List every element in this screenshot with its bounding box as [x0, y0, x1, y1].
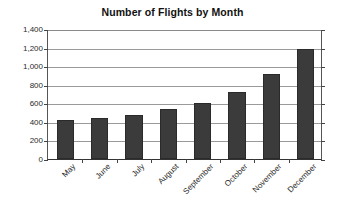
- x-axis-tick-label-text: December: [286, 162, 318, 194]
- bar: [194, 103, 211, 159]
- x-axis-tick-label-text: August: [157, 162, 181, 186]
- y-axis-tick-label: 600: [3, 100, 43, 108]
- x-axis-tick-label-text: November: [251, 162, 283, 194]
- y-tick-mark: [321, 86, 325, 87]
- bar: [228, 92, 245, 159]
- bar: [297, 49, 314, 159]
- y-tick-mark: [321, 141, 325, 142]
- y-tick-mark: [321, 123, 325, 124]
- y-axis-tick-label: 1,200: [3, 45, 43, 53]
- y-tick-mark: [44, 160, 48, 161]
- y-axis-tick-label: 200: [3, 137, 43, 145]
- bar-chart: Number of Flights by Month 0200400600800…: [0, 0, 345, 224]
- bar: [125, 115, 142, 159]
- y-tick-mark: [321, 160, 325, 161]
- y-tick-mark: [321, 49, 325, 50]
- bar: [263, 74, 280, 159]
- x-axis-tick-label-text: June: [93, 162, 112, 181]
- chart-title: Number of Flights by Month: [0, 6, 345, 18]
- x-axis-tick-label-text: July: [130, 162, 146, 178]
- bar: [91, 118, 108, 159]
- plot-area: [47, 30, 322, 160]
- y-axis-tick-label: 400: [3, 119, 43, 127]
- y-axis-labels: 02004006008001,0001,2001,400: [0, 30, 43, 160]
- y-tick-mark: [321, 30, 325, 31]
- bar: [160, 109, 177, 159]
- y-tick-mark: [321, 67, 325, 68]
- y-tick-mark: [321, 104, 325, 105]
- y-axis-tick-label: 1,400: [3, 26, 43, 34]
- x-axis-labels: MayJuneJulyAugustSeptemberOctoberNovembe…: [47, 162, 322, 222]
- x-axis-tick-label-text: September: [181, 162, 215, 196]
- y-axis-tick-label: 800: [3, 82, 43, 90]
- x-axis-tick-label-text: May: [60, 162, 77, 179]
- x-axis-tick-label-text: October: [223, 162, 249, 188]
- y-axis-tick-label: 1,000: [3, 63, 43, 71]
- y-axis-tick-label: 0: [3, 156, 43, 164]
- bars-layer: [48, 30, 321, 159]
- bar: [57, 120, 74, 159]
